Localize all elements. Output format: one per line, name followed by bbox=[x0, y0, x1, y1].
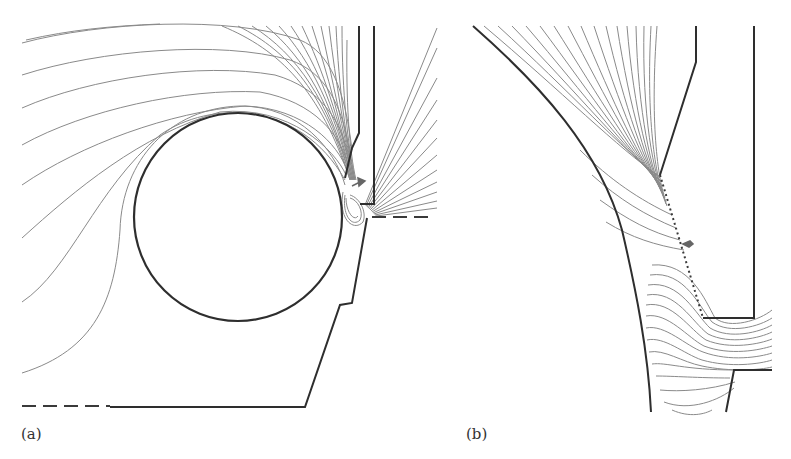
panel-b bbox=[473, 26, 772, 415]
panel-b-slot-boundary bbox=[703, 26, 754, 318]
arrow-icon bbox=[683, 241, 693, 247]
panel-a-slot-boundary bbox=[360, 26, 374, 204]
panel-b-lower-step bbox=[726, 370, 772, 412]
panel-a-gap-loops bbox=[342, 192, 364, 225]
figure-canvas bbox=[0, 0, 791, 459]
panel-a bbox=[22, 24, 437, 407]
panel-b-label: (b) bbox=[466, 425, 487, 443]
panel-b-circle-arc bbox=[473, 26, 651, 412]
panel-a-right-fan-lines bbox=[365, 28, 437, 216]
panel-a-label: (a) bbox=[21, 425, 42, 443]
panel-b-upper-field-lines bbox=[484, 26, 684, 250]
panel-b-insert-boundary bbox=[660, 26, 696, 175]
circular-electrode bbox=[134, 113, 342, 321]
